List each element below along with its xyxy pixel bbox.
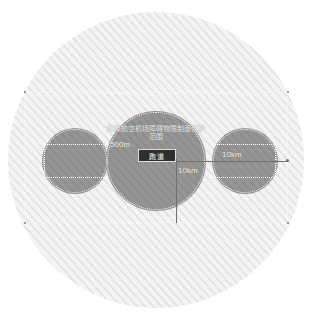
horizontal-dimension-endpoint [286, 159, 289, 162]
vertical-dimension-line [176, 158, 177, 223]
runway-chip: 跑道 [138, 149, 176, 162]
runway-label: 跑道 [149, 151, 165, 161]
corner-marker-top-right [287, 91, 289, 93]
airport-obstacle-limit-diagram: 民用航空机场障碍物限制面保护范围 500m 10km 10km 跑道 [0, 0, 312, 319]
connector-outline-left [44, 144, 108, 178]
vertical-extent-label: 10km [178, 166, 198, 175]
corner-marker-top-left [24, 91, 26, 93]
corner-marker-bottom-right [287, 222, 289, 224]
corner-marker-bottom-left [24, 222, 26, 224]
zone-title-label: 民用航空机场障碍物限制面保护范围 [106, 125, 206, 141]
outer-radius-label: 10km [222, 150, 242, 159]
inner-radius-label: 500m [110, 140, 130, 149]
